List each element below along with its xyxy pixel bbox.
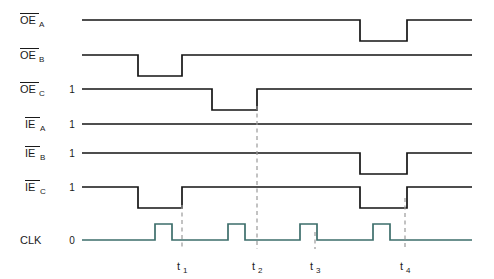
signal-label-oe-b: OE B	[20, 49, 44, 65]
signal-label-ie-b: IE B	[25, 147, 45, 163]
signal-label-ie-b-subscript: B	[40, 153, 45, 162]
signal-label-oe-c: OE C	[20, 83, 45, 99]
waveform-oe-c	[82, 89, 472, 110]
timing-diagram-figure: OE A OE B OE C IE A IE	[0, 0, 494, 279]
signal-label-oe-a: OE A	[20, 14, 45, 30]
signal-label-oe-a-base: OE	[20, 14, 36, 26]
time-marker-line-group	[182, 106, 405, 249]
time-marker-t4-subscript: 4	[406, 266, 411, 275]
level-marker-oe-c: 1	[69, 84, 75, 95]
time-marker-t3-base: t	[310, 260, 313, 272]
time-marker-label-group: t 1 t 2 t 3 t 4	[177, 260, 411, 275]
waveform-ie-c	[82, 187, 472, 208]
signal-label-oe-a-subscript: A	[39, 20, 45, 29]
time-marker-label-t3: t 3	[310, 260, 321, 275]
signal-label-oe-b-subscript: B	[39, 55, 44, 64]
signal-label-ie-c-base: IE	[25, 181, 35, 193]
signal-label-ie-a-subscript: A	[40, 124, 46, 133]
signal-label-ie-a-base: IE	[25, 118, 35, 130]
signal-label-ie-c-subscript: C	[40, 187, 46, 196]
waveform-oe-b	[82, 55, 472, 76]
level-marker-ie-a: 1	[69, 119, 75, 130]
waveform-ie-b	[82, 153, 472, 174]
signal-label-clk-base: CLK	[20, 234, 42, 246]
time-marker-t3-subscript: 3	[316, 266, 321, 275]
signal-label-ie-a: IE A	[25, 118, 46, 134]
waveform-oe-a	[82, 20, 472, 41]
signal-label-ie-b-base: IE	[25, 147, 35, 159]
waveform-clk	[82, 224, 472, 240]
time-marker-t2-base: t	[252, 260, 255, 272]
level-marker-group: 1 1 1 1 0	[69, 84, 75, 246]
signal-label-clk: CLK	[20, 234, 42, 246]
time-marker-label-t1: t 1	[177, 260, 188, 275]
time-marker-t4-base: t	[400, 260, 403, 272]
time-marker-label-t4: t 4	[400, 260, 411, 275]
signal-label-oe-b-base: OE	[20, 49, 36, 61]
time-marker-t2-subscript: 2	[258, 266, 263, 275]
waveform-group	[82, 20, 472, 240]
level-marker-clk: 0	[69, 235, 75, 246]
timing-diagram-canvas: OE A OE B OE C IE A IE	[0, 0, 494, 279]
signal-label-group: OE A OE B OE C IE A IE	[20, 14, 46, 247]
signal-label-oe-c-subscript: C	[39, 89, 45, 98]
time-marker-t1-base: t	[177, 260, 180, 272]
signal-label-oe-c-base: OE	[20, 83, 36, 95]
signal-label-ie-c: IE C	[25, 181, 46, 197]
level-marker-ie-b: 1	[69, 148, 75, 159]
time-marker-t1-subscript: 1	[183, 266, 188, 275]
level-marker-ie-c: 1	[69, 182, 75, 193]
time-marker-label-t2: t 2	[252, 260, 263, 275]
